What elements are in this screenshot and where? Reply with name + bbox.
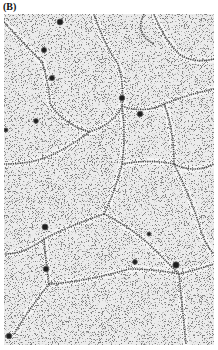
micrograph-image [4,14,214,345]
panel-label: (B) [3,1,16,12]
